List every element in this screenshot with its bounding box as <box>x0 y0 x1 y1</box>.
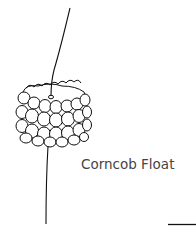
fishing-line-bottom <box>46 146 48 224</box>
fishing-line-top <box>51 8 70 96</box>
corncob-icon <box>16 80 92 147</box>
diagram-canvas: Corncob Float <box>0 0 196 227</box>
caption-label: Corncob Float <box>81 156 174 172</box>
corncob-float-drawing <box>0 0 196 227</box>
